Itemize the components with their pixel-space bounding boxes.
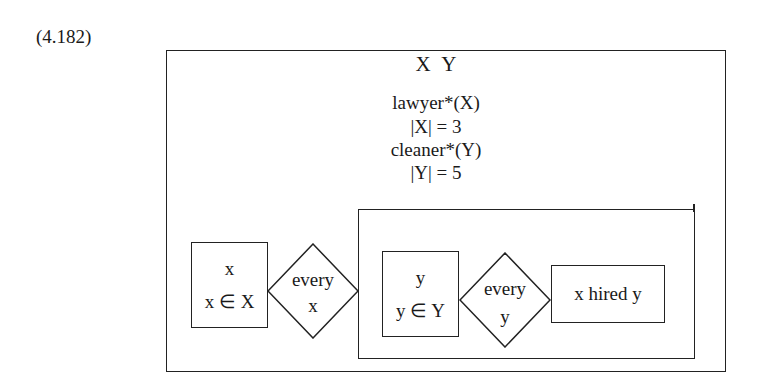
quantifier-diamond-y: every y: [459, 252, 551, 348]
nuclear-scope-box: x hired y: [551, 265, 665, 323]
condition-y-in-Y: y ∈ Y: [396, 299, 445, 322]
condition-cleaner: cleaner*(Y): [366, 139, 506, 161]
condition-x-in-X: x ∈ X: [205, 290, 255, 313]
referent-x: x: [225, 258, 235, 280]
quantifier-label: every: [267, 269, 359, 291]
condition-lawyer: lawyer*(X): [366, 92, 506, 114]
quantifier-label: every: [459, 278, 551, 300]
condition-cardinality-x: |X| = 3: [366, 116, 506, 138]
equation-number: (4.182): [36, 26, 91, 48]
quantifier-variable: y: [459, 306, 551, 328]
quantifier-variable: x: [267, 295, 359, 317]
discourse-referents: X Y: [366, 52, 506, 77]
referent-y: y: [416, 267, 426, 289]
restrictor-box-y: y y ∈ Y: [382, 251, 459, 337]
condition-cardinality-y: |Y| = 5: [366, 162, 506, 184]
condition-x-hired-y: x hired y: [574, 283, 642, 305]
quantifier-diamond-x: every x: [267, 243, 359, 339]
scope-tick-right: [693, 204, 695, 212]
restrictor-box-x: x x ∈ X: [191, 242, 268, 328]
